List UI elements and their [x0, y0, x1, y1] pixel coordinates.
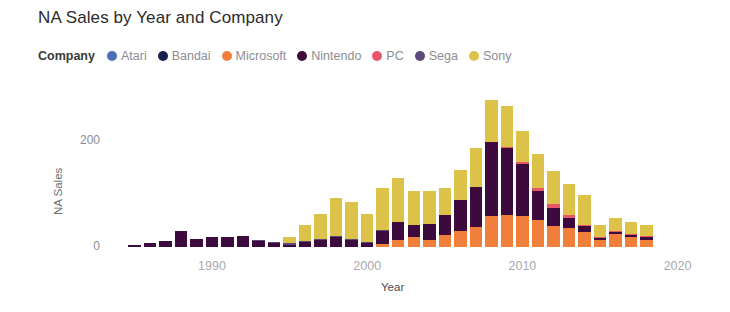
bar-2004[interactable]	[423, 191, 436, 247]
bar-segment-pc	[547, 204, 560, 208]
bar-2018[interactable]	[640, 225, 653, 247]
bar-segment-microsoft	[625, 237, 638, 247]
legend-item-sega[interactable]: Sega	[415, 49, 458, 63]
bar-segment-nintendo	[408, 225, 421, 238]
bar-segment-nintendo	[144, 243, 157, 247]
bar-segment-nintendo	[159, 241, 172, 247]
bar-2000[interactable]	[361, 214, 374, 247]
bar-1996[interactable]	[299, 225, 312, 247]
bar-segment-nintendo	[237, 236, 250, 247]
bar-2007[interactable]	[470, 148, 483, 247]
bar-segment-microsoft	[578, 232, 591, 247]
bar-2016[interactable]	[609, 218, 622, 247]
bar-2015[interactable]	[594, 225, 607, 247]
bar-segment-microsoft	[454, 231, 467, 247]
bar-segment-nintendo	[625, 235, 638, 238]
bar-segment-microsoft	[485, 216, 498, 247]
bar-2005[interactable]	[439, 188, 452, 247]
bar-2003[interactable]	[408, 191, 421, 247]
bar-segment-sony	[408, 191, 421, 224]
legend-item-microsoft[interactable]: Microsoft	[222, 49, 287, 63]
bar-segment-nintendo	[516, 164, 529, 216]
bar-2009[interactable]	[501, 105, 514, 247]
legend-label-sega: Sega	[429, 49, 458, 63]
bar-segment-nintendo	[501, 148, 514, 214]
bar-1998[interactable]	[330, 198, 343, 247]
bar-segment-pc	[501, 147, 514, 149]
bar-segment-nintendo	[423, 224, 436, 240]
bar-2001[interactable]	[376, 188, 389, 247]
bar-1989[interactable]	[190, 239, 203, 247]
bar-1985[interactable]	[128, 245, 141, 247]
bar-segment-microsoft	[439, 235, 452, 247]
legend-title: Company	[38, 49, 95, 63]
bar-2017[interactable]	[625, 222, 638, 247]
bar-segment-sony	[640, 225, 653, 236]
bar-1991[interactable]	[221, 237, 234, 247]
bar-segment-nintendo	[299, 242, 312, 247]
bar-segment-nintendo	[345, 239, 358, 247]
atari-color-dot	[107, 51, 117, 61]
x-tick-1990: 1990	[182, 259, 242, 273]
bar-segment-sega	[299, 241, 312, 243]
bar-1988[interactable]	[175, 231, 188, 247]
bar-segment-microsoft	[501, 215, 514, 247]
legend-item-sony[interactable]: Sony	[469, 49, 512, 63]
bar-1993[interactable]	[252, 240, 265, 247]
bar-2012[interactable]	[547, 171, 560, 247]
bar-segment-nintendo	[454, 200, 467, 231]
bar-segment-sony	[547, 171, 560, 204]
bar-segment-microsoft	[470, 227, 483, 247]
legend-item-nintendo[interactable]: Nintendo	[297, 49, 361, 63]
bar-2011[interactable]	[532, 154, 545, 247]
bar-segment-nintendo	[361, 242, 374, 247]
bar-segment-microsoft	[376, 244, 389, 247]
bar-segment-microsoft	[392, 240, 405, 247]
legend-item-bandai[interactable]: Bandai	[158, 49, 211, 63]
bar-segment-nintendo	[485, 142, 498, 216]
legend-item-pc[interactable]: PC	[372, 49, 403, 63]
bar-2010[interactable]	[516, 131, 529, 247]
x-tick-2020: 2020	[648, 259, 708, 273]
microsoft-color-dot	[222, 51, 232, 61]
bar-segment-pc	[516, 162, 529, 164]
bar-segment-sony	[314, 214, 327, 239]
bar-2013[interactable]	[563, 184, 576, 247]
bar-segment-nintendo	[314, 240, 327, 247]
bar-segment-nintendo	[392, 222, 405, 239]
bar-segment-sega	[314, 239, 327, 240]
bar-2006[interactable]	[454, 170, 467, 247]
bar-1999[interactable]	[345, 202, 358, 247]
bar-2014[interactable]	[578, 195, 591, 247]
bar-2002[interactable]	[392, 178, 405, 247]
bar-segment-sony	[609, 218, 622, 231]
bar-1995[interactable]	[283, 237, 296, 247]
bar-segment-pc	[640, 236, 653, 237]
bar-segment-sega	[283, 243, 296, 245]
bar-segment-nintendo	[640, 237, 653, 240]
bar-1994[interactable]	[268, 242, 281, 247]
bar-segment-microsoft	[516, 216, 529, 247]
bar-segment-microsoft	[423, 240, 436, 247]
bar-1986[interactable]	[144, 243, 157, 247]
bar-segment-sega	[252, 240, 265, 241]
bar-segment-nintendo	[609, 232, 622, 235]
bar-2008[interactable]	[485, 100, 498, 247]
sony-color-dot	[469, 51, 479, 61]
bar-segment-sony	[532, 154, 545, 188]
x-axis-label: Year	[381, 281, 404, 293]
bar-segment-pc	[578, 225, 591, 227]
bar-1997[interactable]	[314, 214, 327, 247]
bar-segment-sony	[485, 100, 498, 142]
bar-1990[interactable]	[206, 237, 219, 247]
bar-segment-pc	[609, 231, 622, 232]
bar-1987[interactable]	[159, 241, 172, 247]
bar-segment-sony	[392, 178, 405, 222]
bar-segment-nintendo	[532, 191, 545, 220]
bar-1992[interactable]	[237, 236, 250, 247]
legend-item-atari[interactable]: Atari	[107, 49, 147, 63]
bar-segment-microsoft	[640, 240, 653, 247]
chart-container: NA Sales by Year and Company Company Ata…	[0, 0, 730, 312]
bar-segment-sega	[345, 239, 358, 240]
bar-segment-sony	[439, 188, 452, 216]
